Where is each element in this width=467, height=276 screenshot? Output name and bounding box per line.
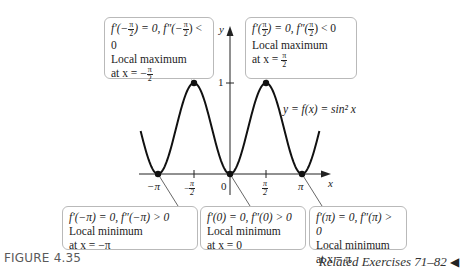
- callout-type: Local minimum: [69, 224, 191, 238]
- related-exercises: Related Exercises 71–82 ◀: [319, 254, 459, 270]
- callout-local-min-pi: f′(π) = 0, f″(π) > 0 Local minimum at x …: [309, 206, 407, 250]
- x-tick-neg-pi-half: −π2: [184, 180, 195, 197]
- triangle-left-icon: ◀: [450, 255, 459, 269]
- callout-location: at x = −π2: [111, 66, 207, 83]
- callout-condition: f′(0) = 0, f″(0) > 0: [207, 210, 299, 224]
- point-pi-half: [263, 80, 269, 86]
- callout-location: at x = −π: [69, 238, 191, 252]
- callout-condition: f′(π2) = 0, f″(π2) < 0: [252, 21, 350, 38]
- x-tick-zero: 0: [221, 180, 227, 192]
- x-axis-label: x: [328, 177, 333, 189]
- callout-condition: f′(π) = 0, f″(π) > 0: [316, 210, 400, 238]
- point-zero: [227, 171, 233, 177]
- y-tick-1: 1: [218, 76, 224, 88]
- curve-label: y = f(x) = sin² x: [283, 103, 356, 115]
- callout-local-min-neg-pi: f′(−π) = 0, f″(−π) > 0 Local minimum at …: [62, 206, 198, 250]
- callout-condition: f′(−π) = 0, f″(−π) > 0: [69, 210, 191, 224]
- callout-location: at x = π2: [252, 52, 350, 69]
- callout-location: at x = 0: [207, 238, 299, 252]
- figure-label: FIGURE 4.35: [4, 251, 81, 265]
- y-axis-label: y: [219, 23, 224, 35]
- callout-type: Local maximum: [111, 52, 207, 66]
- point-pi: [299, 171, 305, 177]
- callout-local-max-pi-half: f′(π2) = 0, f″(π2) < 0 Local maximum at …: [245, 17, 357, 79]
- x-tick-pi: π: [298, 180, 304, 192]
- related-exercises-text: Related Exercises 71–82: [319, 254, 447, 269]
- y-axis-arrow-icon: [227, 26, 234, 36]
- callout-type: Local minimum: [207, 224, 299, 238]
- callout-type: Local maximum: [252, 38, 350, 52]
- callout-condition: f′(−π2) = 0, f″(−π2) < 0: [111, 21, 207, 52]
- callout-local-max-neg-pi-half: f′(−π2) = 0, f″(−π2) < 0 Local maximum a…: [104, 17, 214, 79]
- x-tick-pi-half: π2: [262, 180, 268, 197]
- callout-local-min-zero: f′(0) = 0, f″(0) > 0 Local minimum at x …: [200, 206, 306, 250]
- point-neg-pi: [155, 171, 161, 177]
- x-tick-neg-pi: −π: [147, 180, 160, 192]
- callout-type: Local minimum: [316, 238, 400, 252]
